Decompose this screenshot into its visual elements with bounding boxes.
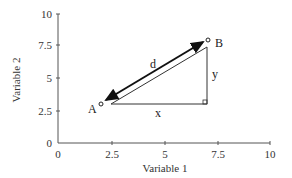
x-tick-10: 10 bbox=[265, 148, 277, 160]
point-a-label: A bbox=[88, 102, 97, 116]
x-tick-5: 5 bbox=[162, 148, 168, 160]
right-triangle bbox=[111, 47, 207, 104]
distance-label: d bbox=[150, 57, 156, 71]
right-angle-marker bbox=[203, 100, 207, 104]
y-tick-10: 10 bbox=[41, 8, 53, 20]
distance-diagram: 10 7.5 5 2.5 0 Variable 2 0 2.5 5 7.5 10… bbox=[0, 0, 292, 178]
y-axis: 10 7.5 5 2.5 0 Variable 2 bbox=[10, 8, 60, 149]
distance-arrow bbox=[106, 42, 203, 100]
y-tick-0: 0 bbox=[47, 137, 53, 149]
x-tick-0: 0 bbox=[55, 148, 61, 160]
point-b-label: B bbox=[215, 36, 223, 50]
y-axis-title: Variable 2 bbox=[10, 58, 22, 103]
x-tick-7.5: 7.5 bbox=[211, 148, 225, 160]
leg-x-label: x bbox=[155, 106, 161, 120]
x-axis-title: Variable 1 bbox=[143, 162, 188, 174]
x-tick-2.5: 2.5 bbox=[105, 148, 119, 160]
y-tick-5: 5 bbox=[47, 72, 53, 84]
y-tick-7.5: 7.5 bbox=[38, 39, 52, 51]
leg-y-label: y bbox=[212, 67, 218, 81]
point-a-marker bbox=[99, 102, 103, 106]
x-axis: 0 2.5 5 7.5 10 Variable 1 bbox=[55, 141, 276, 174]
point-b-marker bbox=[206, 38, 210, 42]
y-tick-2.5: 2.5 bbox=[38, 105, 52, 117]
